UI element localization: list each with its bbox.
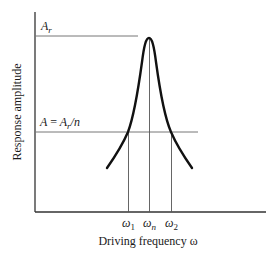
omegan-label: ωn <box>143 216 156 232</box>
x-axis-label: Driving frequency ω <box>98 234 197 248</box>
omega2-label: ω2 <box>165 216 178 232</box>
y-axis-label: Response amplitude <box>10 64 24 161</box>
resonance-diagram: Ar A = Ar/n Response amplitude ω1 ωn ω2 … <box>0 0 279 253</box>
omega1-label: ω1 <box>122 216 135 232</box>
peak-amplitude-label: Ar <box>40 19 52 35</box>
threshold-amplitude-label: A = Ar/n <box>39 115 80 131</box>
